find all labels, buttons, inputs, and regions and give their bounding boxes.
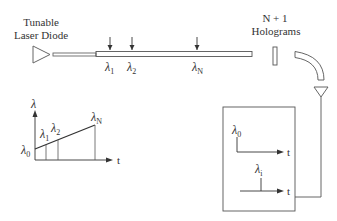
holograms-label-line1: N + 1 [262,12,287,24]
hologram-element [273,47,277,65]
grating-arrow-2 [130,37,135,50]
grating-fiber [96,52,252,57]
box-bottom-arrow-icon [277,189,284,194]
graph-x-arrow-icon [106,158,113,163]
curved-output-fiber [295,52,324,81]
box-bottom-t-label: t [287,185,290,197]
input-fiber [53,53,96,56]
photodetector-icon [314,87,328,97]
graph-lambda-2: λ2 [50,121,60,137]
box-top-t-label: t [287,146,290,158]
fiber-lambda-1: λ1 [104,60,114,76]
graph-lambda-N: λN [90,110,102,126]
box-top-arrow-icon [277,150,284,155]
box-lambda-i: λi [254,162,263,178]
graph-lambda-1: λ1 [39,127,49,143]
box-top-trace [237,137,281,152]
laser-label-line2: Laser Diode [14,29,68,41]
fiber-lambda-2: λ2 [126,60,136,76]
holograms-label-line2: Holograms [252,25,301,37]
laser-diode-icon [33,46,50,63]
grating-arrow-1 [108,37,113,50]
diagram-canvas: Tunable Laser Diode λ1 λ2 λN N + 1 Holog… [0,0,337,221]
graph-y-label: λ [30,97,36,111]
fiber-lambda-N: λN [191,60,203,76]
laser-label-line1: Tunable [23,16,59,28]
graph-lambda-0: λ0 [20,143,30,159]
graph-x-label: t [117,154,120,166]
signal-wire [295,97,321,197]
box-lambda-0: λ0 [231,123,241,139]
grating-arrow-N [195,37,200,50]
graph-y-arrow-icon [33,110,38,117]
